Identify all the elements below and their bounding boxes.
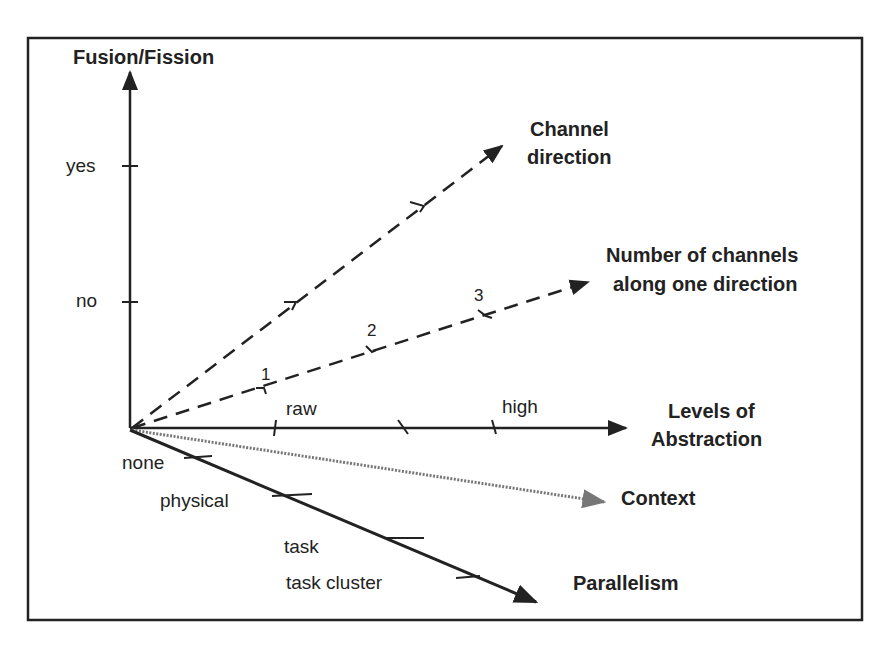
levels-of-abstraction-title-2: Abstraction: [651, 428, 762, 451]
tick-2: 2: [367, 321, 376, 341]
tick-task: task: [284, 536, 319, 558]
number-of-channels-title-1: Number of channels: [606, 244, 798, 267]
fusion-fission-axis: [122, 72, 138, 428]
tick-yes: yes: [66, 155, 96, 177]
channel-direction-title-2: direction: [527, 146, 611, 169]
tick-physical: physical: [160, 490, 229, 512]
design-space-diagram: [0, 0, 888, 648]
channel-direction-axis: [132, 146, 502, 428]
levels-of-abstraction-axis: [130, 420, 626, 436]
tick-1: 1: [261, 365, 270, 385]
context-title: Context: [621, 487, 695, 510]
number-of-channels-title-2: along one direction: [613, 273, 797, 296]
fusion-fission-title: Fusion/Fission: [73, 46, 214, 69]
tick-no: no: [76, 290, 97, 312]
tick-3: 3: [474, 286, 483, 306]
parallelism-title: Parallelism: [573, 572, 679, 595]
channel-direction-title-1: Channel: [530, 118, 609, 141]
tick-task-cluster: task cluster: [286, 572, 382, 594]
tick-none: none: [122, 452, 164, 474]
tick-raw: raw: [286, 398, 317, 420]
tick-high: high: [502, 396, 538, 418]
levels-of-abstraction-title-1: Levels of: [668, 400, 755, 423]
